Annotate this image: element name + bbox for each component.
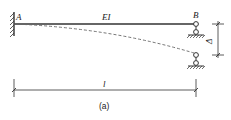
deflected-shape (14, 24, 194, 53)
label-ei: EI (101, 12, 111, 22)
beam-diagram: A EI B Δ l (a) (0, 0, 231, 120)
label-delta: Δ (204, 39, 214, 45)
fixed-support-icon (10, 12, 14, 37)
displaced-roller-support-icon (187, 53, 205, 69)
figure-caption: (a) (99, 101, 110, 111)
label-b: B (193, 10, 199, 20)
label-a: A (15, 12, 22, 22)
label-span: l (103, 79, 106, 89)
